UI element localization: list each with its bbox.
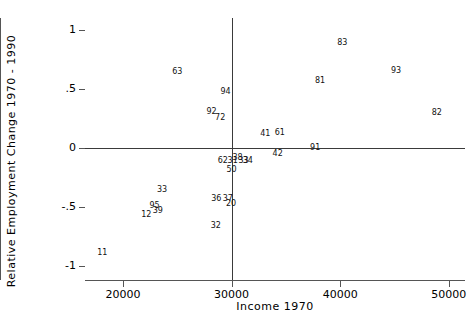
x-tick-label: 20000: [93, 289, 153, 300]
data-point-label: 83: [337, 39, 347, 47]
data-point-label: 91: [310, 144, 320, 152]
data-point-label: 36: [211, 195, 221, 203]
y-tick-label: -.5: [36, 202, 76, 212]
data-point-label: 34: [243, 157, 253, 165]
data-point-label: 82: [432, 109, 442, 117]
x-tick-label: 50000: [419, 289, 472, 300]
y-tick-label: 1: [36, 25, 76, 35]
plot-area: 6394927283938182416191426231383334503336…: [85, 18, 465, 280]
y-tick-label: -1: [36, 261, 76, 271]
data-point-label: 39: [153, 207, 163, 215]
data-point-label: 81: [315, 77, 325, 85]
data-point-label: 72: [215, 114, 225, 122]
x-tick-label: 40000: [310, 289, 370, 300]
data-point-label: 12: [141, 211, 151, 219]
x-tick: [232, 281, 233, 287]
x-tick-label: 30000: [202, 289, 262, 300]
data-point-label: 61: [275, 129, 285, 137]
x-tick: [123, 281, 124, 287]
y-tick-label: .5: [36, 84, 76, 94]
data-point-label: 33: [157, 186, 167, 194]
x-tick: [449, 281, 450, 287]
data-point-label: 63: [172, 68, 182, 76]
data-point-label: 41: [260, 130, 270, 138]
data-point-label: 94: [221, 88, 231, 96]
data-point-label: 32: [211, 222, 221, 230]
data-point-label: 20: [226, 200, 236, 208]
vertical-reference-line: [232, 18, 233, 280]
y-tick-label: 0: [36, 143, 76, 153]
scatter-plot-figure: Relative Employment Change 1970 - 1990 I…: [0, 0, 472, 322]
data-point-label: 11: [97, 249, 107, 257]
data-point-label: 42: [273, 150, 283, 158]
y-axis-label: Relative Employment Change 1970 - 1990: [0, 0, 22, 322]
x-axis-line: [85, 280, 465, 281]
x-tick: [340, 281, 341, 287]
x-axis-label: Income 1970: [85, 300, 465, 313]
data-point-label: 93: [391, 67, 401, 75]
data-point-label: 50: [226, 166, 236, 174]
y-axis-line: [0, 18, 1, 280]
